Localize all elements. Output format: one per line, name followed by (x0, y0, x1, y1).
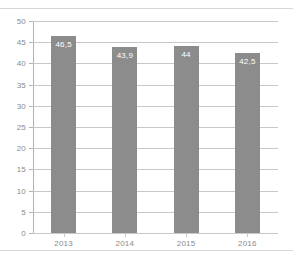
bar: 44 (174, 46, 199, 233)
y-axis-label: 10 (17, 186, 26, 195)
y-axis-tick (29, 85, 33, 86)
bar-value-label: 44 (174, 50, 199, 59)
y-axis-label: 20 (17, 144, 26, 153)
y-axis-tick (29, 63, 33, 64)
y-axis-label: 50 (17, 17, 26, 26)
y-axis-label: 30 (17, 101, 26, 110)
y-axis-tick (29, 42, 33, 43)
x-axis-category-label: 2013 (54, 239, 73, 248)
y-axis-label: 5 (21, 207, 26, 216)
y-axis-label: 45 (17, 38, 26, 47)
y-axis-label: 0 (21, 229, 26, 238)
y-axis-tick (29, 233, 33, 234)
y-axis-tick (29, 148, 33, 149)
y-axis-tick (29, 212, 33, 213)
y-axis-tick (29, 191, 33, 192)
plot-area: 50454035302520151050 46,543,94442,5 (33, 21, 278, 234)
y-axis-label: 15 (17, 165, 26, 174)
top-divider-rule (0, 8, 293, 9)
y-axis-tick (29, 169, 33, 170)
gridline (33, 21, 278, 22)
bottom-divider-rule (0, 250, 293, 251)
bar-value-label: 43,9 (112, 51, 137, 60)
x-axis-tick (247, 234, 248, 237)
y-axis-tick (29, 21, 33, 22)
bar: 43,9 (112, 47, 137, 233)
y-axis-label: 40 (17, 59, 26, 68)
bar-value-label: 46,5 (51, 40, 76, 49)
y-axis-tick (29, 106, 33, 107)
bar: 46,5 (51, 36, 76, 233)
y-axis-label: 25 (17, 123, 26, 132)
bar: 42,5 (235, 53, 260, 233)
x-axis-tick (64, 234, 65, 237)
x-axis-category-label: 2014 (116, 239, 135, 248)
x-axis-category-label: 2015 (177, 239, 196, 248)
x-axis-tick (125, 234, 126, 237)
gridline (33, 233, 278, 234)
bar-value-label: 42,5 (235, 57, 260, 66)
y-axis-label: 35 (17, 80, 26, 89)
x-axis-tick (186, 234, 187, 237)
bar-chart-figure: 50454035302520151050 46,543,94442,5 2013… (0, 0, 293, 261)
y-axis-tick (29, 127, 33, 128)
x-axis-category-label: 2016 (238, 239, 257, 248)
